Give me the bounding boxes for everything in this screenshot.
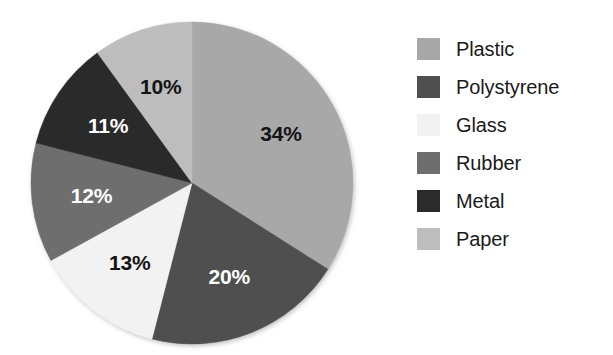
legend-item-label: Glass xyxy=(456,115,507,135)
legend-item-label: Plastic xyxy=(456,39,514,59)
pie-slice-label: 12% xyxy=(71,184,113,207)
legend-color-swatch xyxy=(417,76,440,98)
legend-item-label: Polystyrene xyxy=(456,77,559,97)
legend-item[interactable]: Metal xyxy=(417,182,613,220)
pie-chart-figure: 34%20%13%12%11%10% PlasticPolystyreneGla… xyxy=(0,0,613,355)
pie-plot-area: 34%20%13%12%11%10% xyxy=(0,0,390,355)
pie-slice-label: 34% xyxy=(260,122,302,145)
legend-color-swatch xyxy=(417,190,440,212)
legend-item[interactable]: Rubber xyxy=(417,144,613,182)
pie-slice-label: 11% xyxy=(88,114,129,137)
legend-item[interactable]: Plastic xyxy=(417,30,613,68)
legend-item-label: Rubber xyxy=(456,153,521,173)
pie-svg: 34%20%13%12%11%10% xyxy=(0,0,390,355)
pie-slice-label: 20% xyxy=(209,265,251,288)
legend-color-swatch xyxy=(417,114,440,136)
legend-item[interactable]: Glass xyxy=(417,106,613,144)
legend-item[interactable]: Polystyrene xyxy=(417,68,613,106)
legend-item-label: Paper xyxy=(456,229,509,249)
legend-item-label: Metal xyxy=(456,191,504,211)
chart-legend: PlasticPolystyreneGlassRubberMetalPaper xyxy=(417,30,613,258)
pie-slice-label: 10% xyxy=(140,75,182,98)
legend-color-swatch xyxy=(417,228,440,250)
legend-item[interactable]: Paper xyxy=(417,220,613,258)
legend-color-swatch xyxy=(417,38,440,60)
legend-color-swatch xyxy=(417,152,440,174)
pie-slice-label: 13% xyxy=(109,251,151,274)
